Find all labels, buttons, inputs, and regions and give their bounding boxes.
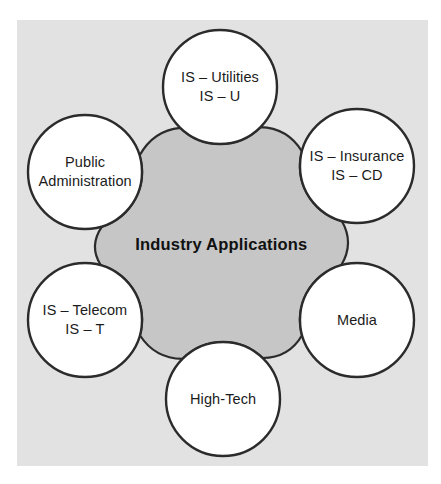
diagram-vector-layer [0,0,441,484]
node-circle-is-insurance[interactable] [300,109,414,223]
node-circle-is-utilities[interactable] [163,30,277,144]
node-circle-high-tech[interactable] [166,342,280,456]
industry-applications-diagram: Industry Applications IS – UtilitiesIS –… [0,0,441,484]
node-circle-is-telecom[interactable] [28,263,142,377]
node-circle-public-administration[interactable] [28,115,142,229]
node-circle-media[interactable] [300,263,414,377]
